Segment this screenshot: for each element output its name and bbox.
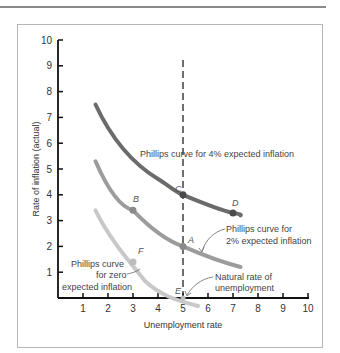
svg-text:4: 4 [155,303,161,314]
annotation-zero-line3: expected inflation [62,282,132,292]
annotation-zero-line1: Phillips curve [71,259,124,269]
label-E: E [175,286,182,296]
svg-text:5: 5 [46,164,52,175]
phillips-chart: 10 9 8 7 6 5 4 3 2 1 1 2 3 4 5 6 7 8 9 1… [0,0,340,353]
curve-2pct-expected [96,161,241,267]
x-axis-title: Unemployment rate [144,320,223,330]
annotation-2pct-line1: Phillips curve for [226,224,292,234]
label-D: D [232,198,239,208]
annotation-natural-line2: unemployment [215,283,275,293]
svg-text:5: 5 [180,303,186,314]
svg-text:9: 9 [280,303,286,314]
annotation-natural-line1: Natural rate of [215,272,273,282]
svg-text:3: 3 [130,303,136,314]
svg-text:9: 9 [46,60,52,71]
svg-text:1: 1 [46,267,52,278]
svg-text:6: 6 [46,138,52,149]
label-F: F [138,246,144,256]
label-C: C [175,184,182,194]
svg-text:8: 8 [255,303,261,314]
svg-text:2: 2 [46,241,52,252]
label-A: A [187,235,194,245]
point-B [130,207,137,214]
point-D [230,209,237,216]
label-B: B [133,194,139,204]
annotation-2pct-line2: 2% expected inflation [226,236,312,246]
svg-text:2: 2 [105,303,111,314]
point-F [130,258,137,265]
y-axis [58,40,63,298]
svg-text:10: 10 [41,35,53,46]
annotation-zero-line2: for zero [96,270,127,280]
annotation-4pct: Phillips curve for 4% expected inflation [140,149,294,159]
svg-text:10: 10 [302,303,314,314]
svg-text:7: 7 [230,303,236,314]
point-A [180,243,187,250]
svg-text:1: 1 [80,303,86,314]
svg-text:7: 7 [46,112,52,123]
point-E [181,296,186,301]
y-axis-title: Rate of inflation (actual) [31,121,41,216]
y-tick-labels: 10 9 8 7 6 5 4 3 2 1 [41,35,53,278]
arrow-2pct [202,229,225,251]
svg-text:4: 4 [46,189,52,200]
svg-text:3: 3 [46,215,52,226]
svg-text:8: 8 [46,86,52,97]
svg-text:6: 6 [205,303,211,314]
arrow-natural [187,277,213,295]
